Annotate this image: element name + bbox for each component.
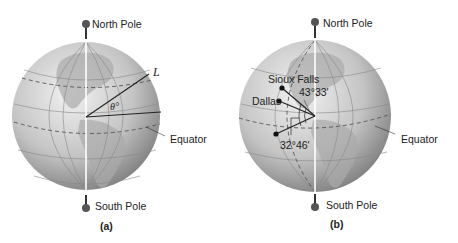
- equator-point: [273, 131, 278, 136]
- north-pole-knob-icon: [82, 20, 90, 28]
- angle-32-46-label: 32°46′: [280, 140, 310, 151]
- dallas-label: Dallas: [252, 96, 281, 107]
- south-pole-label: South Pole: [326, 200, 377, 211]
- figure-b: North Pole South Pole Equator Sioux Fall…: [229, 0, 458, 243]
- north-pole-knob-icon: [311, 18, 319, 26]
- point-l-label: L: [153, 66, 160, 78]
- south-pole-label: South Pole: [95, 201, 146, 212]
- caption-a: (a): [100, 221, 113, 232]
- sioux-falls-point: [279, 85, 284, 90]
- theta-angle-label: θ°: [110, 102, 119, 112]
- north-pole-label: North Pole: [92, 19, 142, 30]
- south-pole-knob-icon: [311, 203, 319, 211]
- sioux-falls-label: Sioux Falls: [268, 74, 319, 85]
- angle-43-33-label: 43°33′: [299, 87, 329, 98]
- figure-a: North Pole South Pole Equator L θ° (a): [0, 0, 229, 243]
- equator-label: Equator: [401, 134, 438, 145]
- equator-label: Equator: [170, 134, 207, 145]
- north-pole-label: North Pole: [323, 18, 373, 29]
- south-pole-knob-icon: [82, 204, 90, 212]
- caption-b: (b): [330, 219, 343, 230]
